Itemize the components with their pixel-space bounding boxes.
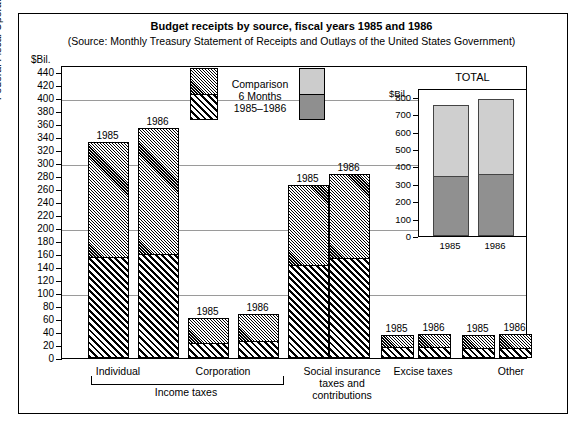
inset-y-tick-label: 400 xyxy=(385,163,411,171)
legend-solid-bottom xyxy=(300,94,324,120)
y-tick-label: 340 xyxy=(24,134,54,142)
y-tick-label: 260 xyxy=(24,186,54,194)
inset-bar-1986 xyxy=(478,99,514,236)
y-tick-label: 360 xyxy=(24,121,54,129)
bar-1985 xyxy=(288,185,329,358)
y-tick-label: 240 xyxy=(24,199,54,207)
bar-year-label: 1985 xyxy=(188,306,228,317)
chart-page: Budget receipts by source, fiscal years … xyxy=(0,0,583,426)
bar-year-label: 1985 xyxy=(288,173,328,184)
y-tick-label: 280 xyxy=(24,173,54,181)
bar-1985 xyxy=(188,318,229,358)
bar-segment-upper xyxy=(189,319,228,342)
y-tick-label: 60 xyxy=(24,316,54,324)
page-subtitle: (Source: Monthly Treasury Statement of R… xyxy=(0,35,583,47)
bar-segment-upper xyxy=(463,336,494,348)
bar-year-label: 1986 xyxy=(495,322,535,333)
bar-year-label: 1985 xyxy=(458,323,498,334)
y-axis-title: Federal Fiscal Operations xyxy=(0,0,3,150)
legend-hatch-top xyxy=(191,69,217,94)
bar-segment-lower-6months xyxy=(382,347,413,357)
legend-text: Comparison 6 Months 1985–1986 xyxy=(220,78,300,114)
legend-line-3: 1985–1986 xyxy=(220,102,300,114)
bar-1985 xyxy=(88,142,129,358)
bar-1986 xyxy=(138,128,179,358)
bar-year-label: 1986 xyxy=(138,116,178,127)
category-label-social-insurance-3: contributions xyxy=(287,389,397,401)
bar-segment-upper xyxy=(289,186,328,264)
category-label-excise-taxes: Excise taxes xyxy=(378,365,468,377)
inset-segment-lower-6months xyxy=(479,174,513,235)
category-label-other: Other xyxy=(466,365,556,377)
inset-segment-upper xyxy=(479,100,513,174)
bar-segment-upper xyxy=(139,129,178,253)
y-tick-label: 40 xyxy=(24,329,54,337)
legend-line-2: 6 Months xyxy=(220,90,300,102)
inset-y-tick-mark xyxy=(413,237,418,238)
y-tick-label: 380 xyxy=(24,108,54,116)
bar-segment-lower-6months xyxy=(500,348,531,357)
bar-segment-lower-6months xyxy=(189,343,228,357)
bar-1986 xyxy=(329,174,370,358)
page-title: Budget receipts by source, fiscal years … xyxy=(0,20,583,32)
y-tick-mark xyxy=(56,359,62,360)
inset-y-tick-label: 500 xyxy=(385,146,411,154)
y-tick-label: 20 xyxy=(24,342,54,350)
bar-segment-upper xyxy=(500,335,531,348)
bar-1986 xyxy=(418,334,451,358)
inset-y-tick-label: 100 xyxy=(385,216,411,224)
y-tick-label: 180 xyxy=(24,238,54,246)
bar-year-label: 1986 xyxy=(238,302,278,313)
inset-plot-area xyxy=(418,89,527,237)
y-tick-label: 320 xyxy=(24,147,54,155)
bar-segment-lower-6months xyxy=(419,347,450,357)
y-tick-label: 140 xyxy=(24,264,54,272)
y-tick-label: 80 xyxy=(24,303,54,311)
bar-segment-upper xyxy=(382,336,413,347)
y-tick-label: 100 xyxy=(24,290,54,298)
bar-year-label: 1985 xyxy=(88,130,128,141)
inset-y-tick-label: 200 xyxy=(385,198,411,206)
legend-line-1: Comparison xyxy=(220,78,300,90)
y-tick-label: 440 xyxy=(24,69,54,77)
bar-segment-lower-6months xyxy=(239,341,278,357)
legend-hatch-bottom xyxy=(191,94,217,120)
solid-bar-sample xyxy=(299,68,325,120)
y-tick-label: 300 xyxy=(24,160,54,168)
bar-segment-lower-6months xyxy=(89,257,128,357)
income-taxes-bracket xyxy=(91,376,284,385)
inset-bar-1985 xyxy=(433,105,469,236)
bar-year-label: 1986 xyxy=(414,322,454,333)
inset-segment-lower-6months xyxy=(434,176,468,235)
y-tick-label: 200 xyxy=(24,225,54,233)
bar-segment-upper xyxy=(330,175,369,258)
bar-segment-upper xyxy=(239,315,278,342)
inset-segment-upper xyxy=(434,106,468,177)
y-tick-label: 0 xyxy=(24,355,54,363)
inset-y-tick-label: 800 xyxy=(385,94,411,102)
bar-segment-lower-6months xyxy=(139,254,178,357)
y-tick-label: 160 xyxy=(24,251,54,259)
inset-bar-label: 1985 xyxy=(430,240,470,251)
y-tick-label: 120 xyxy=(24,277,54,285)
bar-segment-lower-6months xyxy=(330,258,369,357)
bar-year-label: 1985 xyxy=(377,323,417,334)
category-label-social-insurance-2: taxes and xyxy=(287,377,397,389)
bar-1986 xyxy=(238,314,279,358)
inset-y-tick-label: 700 xyxy=(385,111,411,119)
bar-1985 xyxy=(462,335,495,358)
y-axis-unit-main: $Bil. xyxy=(31,54,50,65)
bar-1985 xyxy=(381,335,414,358)
bar-year-label: 1986 xyxy=(329,162,369,173)
legend-solid-top xyxy=(300,69,324,94)
inset-title: TOTAL xyxy=(418,71,527,83)
bracket-label-income-taxes: Income taxes xyxy=(141,386,231,398)
y-tick-label: 400 xyxy=(24,95,54,103)
hatched-bar-sample xyxy=(190,68,218,120)
inset-y-tick-label: 300 xyxy=(385,181,411,189)
bar-segment-lower-6months xyxy=(289,265,328,357)
y-tick-label: 420 xyxy=(24,82,54,90)
bar-segment-lower-6months xyxy=(463,348,494,357)
bar-1986 xyxy=(499,334,532,358)
inset-bar-label: 1986 xyxy=(475,240,515,251)
